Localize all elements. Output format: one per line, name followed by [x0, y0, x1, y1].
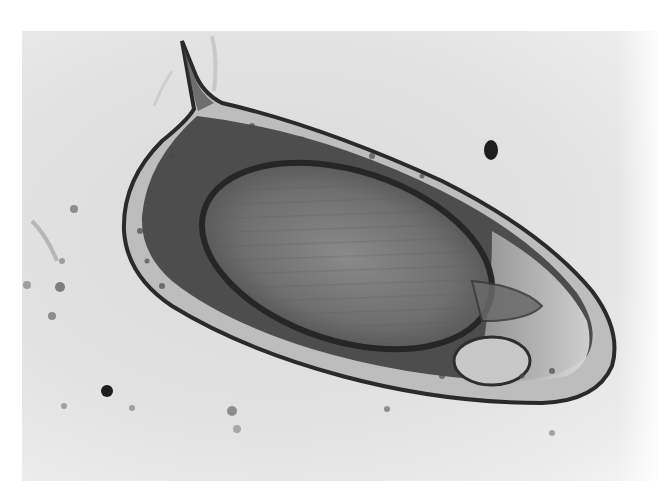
vignette-fade: [618, 31, 658, 481]
background-streak: [154, 71, 172, 106]
egg-illustration: [22, 31, 658, 481]
micrograph-photo: [22, 31, 658, 481]
debris-filament: [32, 221, 57, 261]
vesicle: [454, 337, 530, 385]
background-streak: [212, 36, 216, 91]
